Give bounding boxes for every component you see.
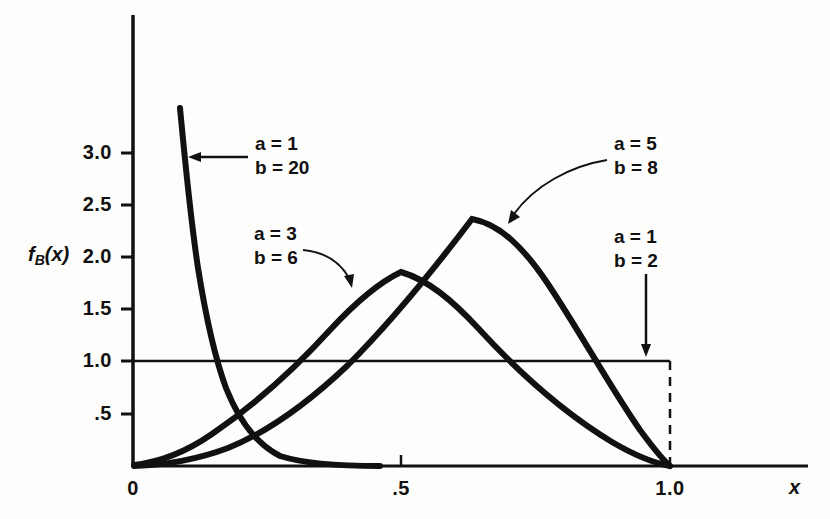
annotation-beta-1-2-a: a = 1 (614, 225, 658, 249)
y-tick-label-0.5: .5 (42, 402, 112, 425)
x-tick-label-0: 0 (103, 477, 163, 500)
arrow-beta-1-20-head (188, 152, 201, 162)
arrow-beta-1-2-head (641, 344, 651, 357)
annotation-beta-5-8: a = 5 b = 8 (614, 132, 658, 180)
arrow-beta-3-6-shaft (303, 250, 349, 278)
annotation-beta-1-2: a = 1 b = 2 (614, 225, 658, 273)
annotation-beta-1-20-b: b = 20 (255, 156, 309, 180)
plot-canvas (0, 0, 830, 519)
x-tick-label-1.0: 1.0 (640, 477, 700, 500)
curve-beta-3-6 (134, 272, 670, 466)
annotation-beta-1-20: a = 1 b = 20 (255, 132, 309, 180)
arrow-beta-5-8-head (508, 210, 520, 224)
y-tick-label-2.0: 2.0 (42, 245, 112, 268)
y-axis-title-f: f (28, 243, 35, 265)
arrow-beta-5-8-shaft (514, 160, 607, 214)
arrow-beta-3-6-head (344, 274, 354, 288)
annotation-beta-5-8-b: b = 8 (614, 156, 658, 180)
annotation-beta-5-8-a: a = 5 (614, 132, 658, 156)
x-axis-title: x (789, 476, 800, 499)
annotation-beta-1-2-b: b = 2 (614, 249, 658, 273)
annotation-beta-3-6: a = 3 b = 6 (254, 222, 298, 270)
annotation-beta-3-6-b: b = 6 (254, 246, 298, 270)
y-tick-label-1.0: 1.0 (42, 349, 112, 372)
x-tick-label-0.5: .5 (371, 477, 431, 500)
y-tick-label-2.5: 2.5 (42, 193, 112, 216)
beta-density-figure: fB(x) 3.0 2.5 2.0 1.5 1.0 .5 0 .5 1.0 x … (0, 0, 830, 519)
y-tick-label-3.0: 3.0 (42, 141, 112, 164)
annotation-beta-3-6-a: a = 3 (254, 222, 298, 246)
annotation-beta-1-20-a: a = 1 (255, 132, 309, 156)
y-tick-label-1.5: 1.5 (42, 297, 112, 320)
